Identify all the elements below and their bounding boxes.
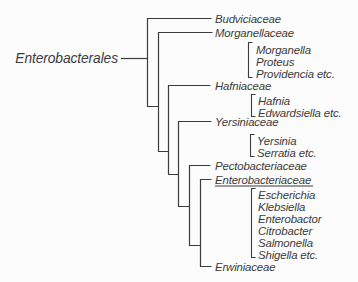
- genus-label-yersinia: Yersinia: [257, 135, 296, 147]
- genus-label-proteus: Proteus: [256, 56, 295, 68]
- phylogenetic-tree-diagram: Enterobacterales Budviciaceae Morganella…: [0, 0, 358, 282]
- root-taxon-label: Enterobacterales: [15, 51, 118, 66]
- genus-label-salmonella: Salmonella: [258, 237, 313, 249]
- family-label-budviciaceae: Budviciaceae: [215, 13, 281, 25]
- genus-bracket-hafniaceae: [252, 95, 256, 117]
- genus-label-klebsiella: Klebsiella: [258, 201, 305, 213]
- genus-bracket-morganellaceae: [249, 43, 253, 78]
- phylo-tree-svg: Enterobacterales Budviciaceae Morganella…: [0, 0, 358, 282]
- clade-line-enterobacteriaceae-erwiniaceae: [201, 180, 212, 267]
- family-label-pectobacteriaceae: Pectobacteriaceae: [215, 160, 307, 172]
- genus-label-hafnia: Hafnia: [258, 95, 290, 107]
- genus-label-citrobacter: Citrobacter: [258, 225, 313, 237]
- family-label-hafniaceae: Hafniaceae: [215, 80, 271, 92]
- clade-line-hafniaceae: [169, 86, 211, 175]
- genus-bracket-enterobacteriaceae: [252, 189, 256, 258]
- family-label-morganellaceae: Morganellaceae: [215, 27, 294, 39]
- genus-label-edwardsiella: Edwardsiella etc.: [258, 107, 342, 119]
- genus-bracket-yersiniaceae: [251, 135, 255, 157]
- genus-label-morganella: Morganella: [256, 44, 311, 56]
- clade-line-yersiniaceae: [179, 122, 212, 207]
- family-label-erwiniaceae: Erwiniaceae: [215, 261, 275, 273]
- family-label-enterobacteriaceae: Enterobacteriaceae: [215, 174, 311, 186]
- genus-label-enterobactor: Enterobactor: [258, 213, 323, 225]
- genus-label-serratia: Serratia etc.: [257, 147, 316, 159]
- genus-label-shigella: Shigella etc.: [258, 249, 318, 261]
- clade-line-morganellaceae: [159, 33, 213, 152]
- clade-line-budviciaceae: [148, 19, 212, 107]
- genus-label-escherichia: Escherichia: [258, 189, 315, 201]
- genus-label-providencia: Providencia etc.: [256, 68, 335, 80]
